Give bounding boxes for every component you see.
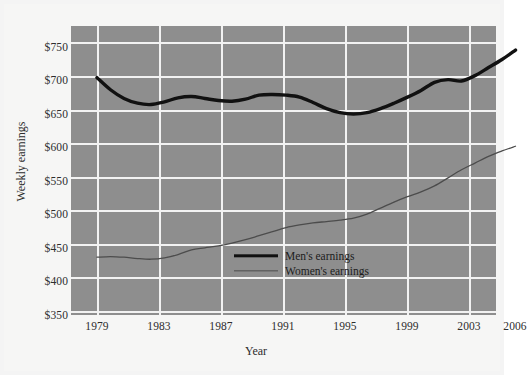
legend-item-women: Women's earnings: [234, 263, 369, 278]
x-axis-title: Year: [4, 344, 508, 359]
x-tick-label-1991: 1991: [253, 320, 313, 332]
x-tick-label-1999: 1999: [377, 320, 437, 332]
x-tick-label-1995: 1995: [315, 320, 375, 332]
legend-label-men: Men's earnings: [285, 250, 354, 262]
y-tick-label-450: $450: [16, 242, 68, 254]
women-earnings-line: [97, 146, 516, 259]
men-earnings-line: [97, 50, 516, 114]
chart-legend: Men's earnings Women's earnings: [234, 248, 369, 278]
figure-inner-panel: $750 $700 $650 $600 $550 $500 $450 $400 …: [4, 4, 500, 371]
legend-item-men: Men's earnings: [234, 248, 369, 263]
plot-area: Men's earnings Women's earnings: [71, 26, 496, 315]
y-tick-label-750: $750: [16, 41, 68, 53]
legend-swatch-women-icon: [234, 264, 278, 278]
y-tick-label-700: $700: [16, 74, 68, 86]
y-axis-title: Weekly earnings: [14, 102, 29, 222]
x-tick-label-1983: 1983: [129, 320, 189, 332]
y-tick-label-350: $350: [16, 309, 68, 321]
x-tick-label-2006: 2006: [485, 320, 531, 332]
legend-swatch-men-icon: [234, 249, 278, 263]
y-tick-label-400: $400: [16, 275, 68, 287]
legend-label-women: Women's earnings: [285, 265, 369, 277]
x-tick-label-1979: 1979: [67, 320, 127, 332]
x-tick-label-1987: 1987: [191, 320, 251, 332]
